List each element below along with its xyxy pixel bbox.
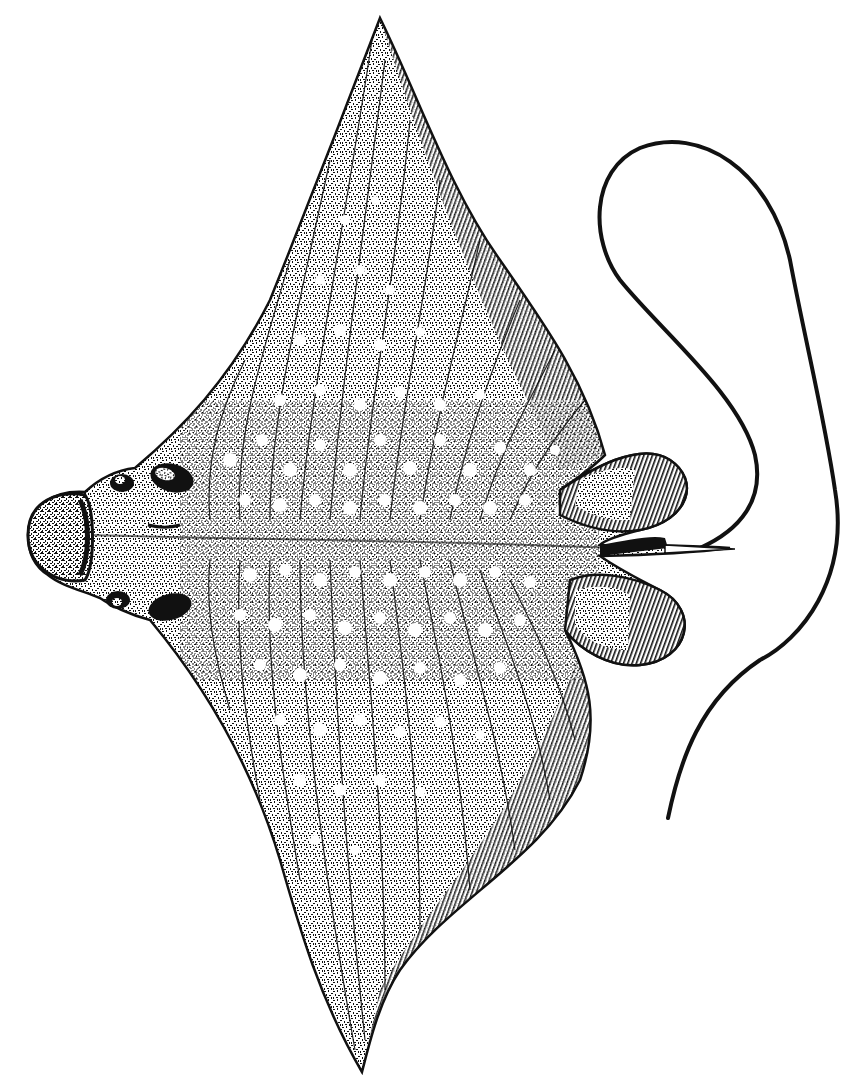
- illustration-stage: Spotted eagle ray, dorsal view: [0, 0, 857, 1088]
- eagle-ray-illustration: [0, 0, 857, 1088]
